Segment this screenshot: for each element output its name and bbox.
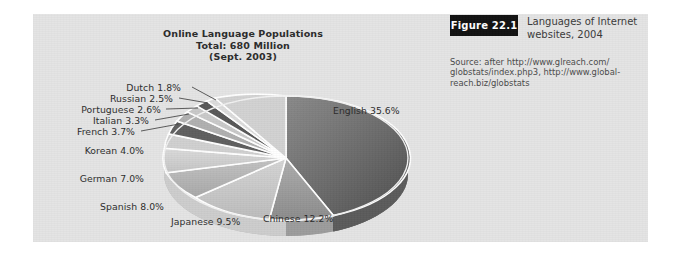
figure-source-line-1: Source: after http://www.glreach.com/ [450,57,635,67]
pie-label-french: French 3.7% [59,126,135,137]
figure-source: Source: after http://www.glreach.com/ gl… [450,57,635,88]
figure-source-line-3: reach.biz/globstats [450,78,635,88]
pie-label-korean: Korean 4.0% [64,145,144,156]
figure-number-badge: Figure 22.1 [450,15,518,36]
figure-title: Languages of Internet websites, 2004 [527,16,645,41]
pie-label-italian: Italian 3.3% [73,115,149,126]
figure-panel: Online Language Populations Total: 680 M… [33,14,648,242]
figure-caption-block: Figure 22.1 Languages of Internet websit… [450,14,648,242]
pie-chart-area: Online Language Populations Total: 680 M… [33,14,453,242]
pie-label-russian: Russian 2.5% [81,93,173,104]
pie-label-portuguese: Portuguese 2.6% [61,104,161,115]
pie-label-german: German 7.0% [60,173,144,184]
pie-label-spanish: Spanish 8.0% [84,201,164,212]
figure-source-line-2: globstats/index.php3, http://www.global- [450,67,635,77]
pie-label-english: English 35.6% [333,105,400,116]
pie-label-japanese: Japanese 9.5% [171,216,240,227]
pie-label-dutch: Dutch 1.8% [95,82,181,93]
pie-label-chinese: Chinese 12.2% [263,213,333,224]
